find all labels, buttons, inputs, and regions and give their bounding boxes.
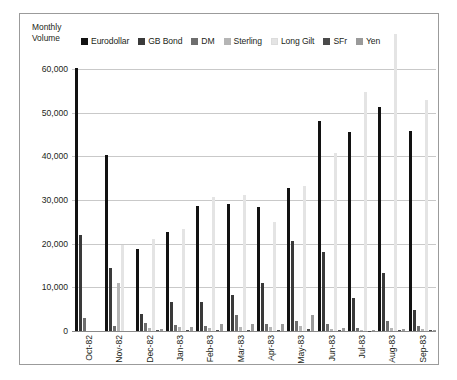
bar-eurodollar[interactable] — [166, 232, 169, 331]
y-tick-label: 50,000 — [42, 108, 68, 118]
bar-group — [318, 69, 346, 331]
legend-swatch-icon — [356, 38, 363, 45]
chart-legend: EurodollarGB BondDMSterlingLong GiltSFrY… — [81, 36, 389, 46]
bar-group — [348, 69, 376, 331]
chart-frame: Monthly Volume EurodollarGB BondDMSterli… — [19, 13, 439, 365]
bar-group — [75, 69, 103, 331]
bar-long-gilt[interactable] — [121, 245, 124, 331]
bar-dm[interactable] — [326, 324, 329, 331]
bar-long-gilt[interactable] — [364, 92, 367, 331]
bar-dm[interactable] — [83, 318, 86, 331]
y-tick-label: 0 — [63, 326, 68, 336]
x-tick-label: Oct-82 — [84, 335, 94, 361]
legend-swatch-icon — [224, 38, 231, 45]
bar-eurodollar[interactable] — [318, 121, 321, 331]
plot-area — [72, 69, 436, 331]
legend-item-long-gilt[interactable]: Long Gilt — [271, 36, 315, 46]
bar-eurodollar[interactable] — [105, 155, 108, 331]
bar-eurodollar[interactable] — [287, 188, 290, 331]
x-tick-label: Feb-83 — [205, 335, 215, 362]
bar-gb-bond[interactable] — [413, 310, 416, 331]
bar-yen[interactable] — [220, 324, 223, 331]
bar-group — [227, 69, 255, 331]
bar-long-gilt[interactable] — [212, 197, 215, 331]
bar-eurodollar[interactable] — [136, 249, 139, 331]
bar-sterling[interactable] — [117, 283, 120, 331]
x-axis-labels: Oct-82Nov-82Dec-82Jan-83Feb-83Mar-83Apr-… — [72, 331, 436, 380]
x-tick-label: Aug-83 — [387, 335, 397, 363]
bar-yen[interactable] — [311, 315, 314, 331]
bar-eurodollar[interactable] — [409, 131, 412, 331]
legend-swatch-icon — [271, 38, 278, 45]
bar-long-gilt[interactable] — [394, 34, 397, 331]
x-tick-label: Mar-83 — [236, 335, 246, 362]
bar-gb-bond[interactable] — [261, 283, 264, 331]
bar-long-gilt[interactable] — [273, 222, 276, 331]
x-tick-label: May-83 — [296, 335, 306, 364]
bar-long-gilt[interactable] — [243, 195, 246, 331]
bar-gb-bond[interactable] — [231, 295, 234, 331]
bar-long-gilt[interactable] — [425, 100, 428, 331]
legend-item-dm[interactable]: DM — [191, 36, 214, 46]
bar-eurodollar[interactable] — [227, 204, 230, 331]
bar-dm[interactable] — [235, 315, 238, 331]
x-tick-label: Apr-83 — [266, 335, 276, 361]
bar-group — [166, 69, 194, 331]
bar-group — [136, 69, 164, 331]
legend-swatch-icon — [138, 38, 145, 45]
bar-gb-bond[interactable] — [382, 273, 385, 332]
bar-long-gilt[interactable] — [152, 239, 155, 331]
y-axis-labels: 010,00020,00030,00040,00050,00060,000 — [20, 69, 72, 331]
legend-label: Sterling — [234, 36, 262, 46]
y-tick-label: 30,000 — [42, 195, 68, 205]
legend-label: Yen — [366, 36, 380, 46]
bar-gb-bond[interactable] — [170, 302, 173, 331]
bar-gb-bond[interactable] — [352, 298, 355, 331]
legend-item-yen[interactable]: Yen — [356, 36, 380, 46]
bar-group — [105, 69, 133, 331]
legend-swatch-icon — [323, 38, 330, 45]
x-tick-label: Sep-83 — [418, 335, 428, 363]
y-tick-label: 20,000 — [42, 239, 68, 249]
legend-item-sfr[interactable]: SFr — [323, 36, 347, 46]
chart-header: Monthly Volume EurodollarGB BondDMSterli… — [32, 22, 432, 58]
legend-item-sterling[interactable]: Sterling — [224, 36, 262, 46]
bar-dm[interactable] — [386, 321, 389, 331]
bar-group — [287, 69, 315, 331]
legend-label: Eurodollar — [91, 36, 129, 46]
legend-swatch-icon — [81, 38, 88, 45]
x-tick-label: Jul-83 — [357, 335, 367, 358]
bar-long-gilt[interactable] — [182, 229, 185, 331]
y-tick-label: 40,000 — [42, 151, 68, 161]
bar-gb-bond[interactable] — [200, 302, 203, 331]
bar-eurodollar[interactable] — [196, 206, 199, 331]
legend-item-eurodollar[interactable]: Eurodollar — [81, 36, 129, 46]
x-tick-label: Nov-82 — [114, 335, 124, 363]
bar-gb-bond[interactable] — [291, 241, 294, 331]
chart-figure: Monthly Volume EurodollarGB BondDMSterli… — [0, 0, 457, 380]
y-tick-label: 10,000 — [42, 282, 68, 292]
bar-eurodollar[interactable] — [378, 107, 381, 331]
bar-dm[interactable] — [295, 321, 298, 331]
legend-label: Long Gilt — [281, 36, 315, 46]
y-tick-label: 60,000 — [42, 64, 68, 74]
bar-long-gilt[interactable] — [303, 186, 306, 331]
legend-swatch-icon — [191, 38, 198, 45]
x-tick-label: Dec-82 — [145, 335, 155, 363]
bar-gb-bond[interactable] — [109, 268, 112, 331]
bar-gb-bond[interactable] — [322, 252, 325, 331]
bar-eurodollar[interactable] — [75, 68, 78, 331]
bar-long-gilt[interactable] — [334, 153, 337, 331]
bar-gb-bond[interactable] — [140, 314, 143, 331]
y-axis-title: Monthly Volume — [32, 22, 80, 43]
bar-dm[interactable] — [144, 323, 147, 331]
bar-group — [196, 69, 224, 331]
legend-label: SFr — [333, 36, 347, 46]
legend-label: DM — [201, 36, 214, 46]
legend-label: GB Bond — [148, 36, 182, 46]
legend-item-gb-bond[interactable]: GB Bond — [138, 36, 182, 46]
bar-eurodollar[interactable] — [348, 132, 351, 331]
bar-eurodollar[interactable] — [257, 207, 260, 331]
bar-gb-bond[interactable] — [79, 235, 82, 332]
x-tick-label: Jan-83 — [175, 335, 185, 361]
